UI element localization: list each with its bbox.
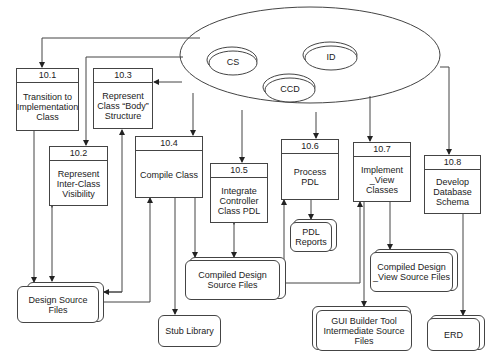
process-10-6: 10.6 Process PDL (281, 139, 339, 200)
process-title: Represent Inter-Class Visibility (50, 161, 107, 206)
process-number: 10.8 (425, 156, 480, 170)
process-10-4: 10.4 Compile Class (135, 136, 203, 198)
process-number: 10.1 (17, 69, 78, 83)
store-label: Compiled Design _View Source Files (370, 252, 453, 292)
store-erd: ERD (427, 315, 484, 351)
process-title: Compile Class (136, 151, 202, 198)
process-title: Develop Database Schema (425, 170, 480, 214)
store-label: Design Source Files (17, 286, 99, 323)
process-title: Integrate Controller Class PDL (211, 178, 267, 223)
process-10-5: 10.5 Integrate Controller Class PDL (210, 163, 268, 223)
store-stub-library: Stub Library (158, 315, 221, 347)
store-label: GUI Builder Tool Intermediate Source Fil… (316, 310, 412, 351)
store-pdl-reports: PDL Reports (290, 219, 336, 252)
store-label: PDL Reports (290, 222, 332, 252)
process-number: 10.3 (94, 69, 152, 83)
store-compiled-view-source-files: Compiled Design _View Source Files (370, 249, 457, 293)
process-number: 10.7 (354, 143, 410, 157)
process-10-3: 10.3 Represent Class “Body” Structure (93, 68, 153, 129)
store-label: Stub Library (158, 315, 221, 347)
datastore-ccd-label: CCD (278, 84, 302, 94)
process-10-2: 10.2 Represent Inter-Class Visibility (49, 146, 108, 206)
store-gui-builder-intermediate-files: GUI Builder Tool Intermediate Source Fil… (312, 306, 412, 351)
process-title: Represent Class “Body” Structure (94, 83, 152, 129)
process-title: Implement _View Classes (354, 157, 410, 202)
datastore-id-label: ID (320, 52, 342, 62)
store-label: ERD (427, 318, 480, 351)
process-title: Process PDL (282, 154, 338, 200)
process-10-1: 10.1 Transition to Implementation Class (16, 68, 79, 131)
datastore-cs-label: CS (222, 57, 244, 67)
store-compiled-design-source-files: Compiled Design Source Files (185, 257, 285, 301)
process-number: 10.4 (136, 137, 202, 151)
store-design-source-files: Design Source Files (17, 282, 104, 324)
process-10-8: 10.8 Develop Database Schema (424, 155, 481, 214)
process-number: 10.6 (282, 140, 338, 154)
store-label: Compiled Design Source Files (185, 260, 280, 300)
process-number: 10.5 (211, 164, 267, 178)
process-10-7: 10.7 Implement _View Classes (353, 142, 411, 202)
process-title: Transition to Implementation Class (17, 83, 78, 131)
process-number: 10.2 (50, 147, 107, 161)
